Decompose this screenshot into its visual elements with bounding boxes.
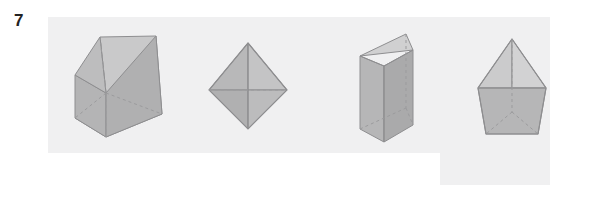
figure-pentagonal-solid-with-pyramid <box>0 0 598 198</box>
exercise-figure-panel: 7 <box>0 0 598 198</box>
pentagonal-solid-icon <box>0 0 598 198</box>
